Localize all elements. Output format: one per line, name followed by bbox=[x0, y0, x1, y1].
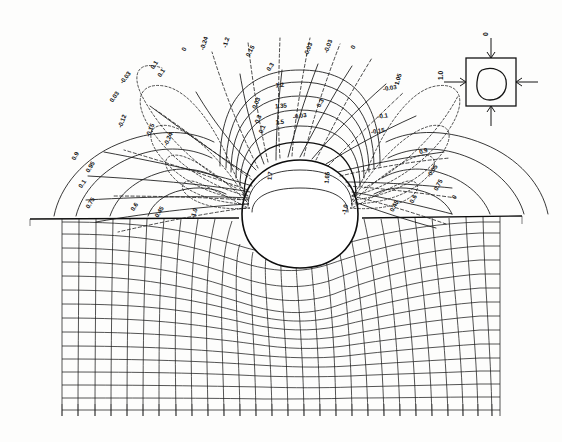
contour-label: -0.03 bbox=[322, 38, 333, 54]
contour-label: 0.03 bbox=[108, 89, 121, 103]
contour-label: -0.1 bbox=[377, 111, 389, 119]
contour-label: -1.2 bbox=[221, 36, 231, 48]
contour-label: -0.12 bbox=[116, 113, 128, 129]
contour-label: -0.03 bbox=[382, 83, 397, 92]
inset-key-diagram: 0 1.0 bbox=[437, 32, 538, 126]
contour-label: 0.6 bbox=[129, 201, 140, 212]
contour-label: 1.65 bbox=[322, 171, 330, 184]
stress-contour-plot: 0.90.950.10.750.60.45-1.0-0.030.03-0.12-… bbox=[0, 0, 562, 442]
contour-label: 0 bbox=[349, 43, 357, 50]
contour-label: 0.3 bbox=[253, 113, 263, 124]
contour-label: 0.75 bbox=[432, 177, 444, 191]
contour-label: 0.15 bbox=[244, 43, 256, 57]
contour-label: 0.1 bbox=[149, 59, 160, 70]
contour-label: 0.9 bbox=[70, 150, 80, 161]
inset-left-load-label: 1.0 bbox=[437, 71, 444, 80]
contour-label: -0.03 bbox=[302, 41, 313, 57]
contour-label: 0 bbox=[450, 193, 458, 200]
contour-label: 0.3 bbox=[265, 61, 276, 72]
contour-label: -0.03 bbox=[118, 69, 132, 85]
contour-label: 0.9 bbox=[418, 146, 429, 155]
contour-label: 1.2 bbox=[275, 81, 285, 89]
contour-label: 0.1 bbox=[156, 67, 167, 78]
figure-canvas: 0.90.950.10.750.60.45-1.0-0.030.03-0.12-… bbox=[0, 0, 562, 442]
contour-label: -0.24 bbox=[198, 35, 209, 51]
contour-label: -0.15 bbox=[144, 122, 156, 138]
contour-label: 0.1 bbox=[77, 178, 88, 189]
contour-label: -0.03 bbox=[292, 111, 307, 120]
contour-label: 1.5 bbox=[275, 118, 285, 126]
contour-label: 0.75 bbox=[84, 195, 96, 209]
contour-label: 0 bbox=[180, 46, 188, 52]
inset-top-load-label: 0 bbox=[482, 32, 489, 36]
contour-label: -0.15 bbox=[370, 126, 385, 135]
contour-label: 1.35 bbox=[275, 101, 288, 109]
contour-label: 0.6 bbox=[408, 193, 418, 204]
contour-label: -0.05 bbox=[425, 162, 439, 178]
contour-label: 1.7 bbox=[266, 171, 274, 181]
contour-label: 0.95 bbox=[84, 159, 96, 173]
